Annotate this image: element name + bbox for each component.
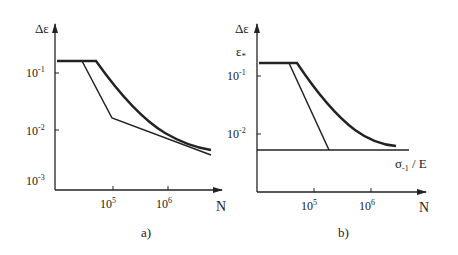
ylabel-a: Δε <box>35 21 49 36</box>
figure: Δε 10-1 10-2 10-3 105 106 N a) Δε ε* 10-… <box>0 0 458 255</box>
ytick-label-b-1: 10-1 <box>227 68 246 83</box>
ytick-label-a-2: 10-2 <box>26 123 45 138</box>
xtick-label-a-1: 105 <box>100 196 116 211</box>
xtick-label-b-1: 105 <box>301 198 317 213</box>
thick-curve-b <box>259 63 396 146</box>
xlabel-b: N <box>419 200 429 215</box>
thin-line-b <box>289 63 329 150</box>
xtick-label-b-2: 106 <box>359 198 375 213</box>
epsilon-star-label: ε* <box>236 44 246 61</box>
thick-curve-a <box>57 61 211 150</box>
caption-b: b) <box>338 225 349 240</box>
panel-b: Δε ε* 10-1 10-2 105 106 N σ-1 / E b) <box>227 21 429 240</box>
caption-a: a) <box>141 225 151 240</box>
thin-line-a <box>82 61 211 155</box>
ytick-label-a-3: 10-3 <box>26 173 45 188</box>
sigma-label: σ-1 / E <box>395 156 427 173</box>
ytick-label-a-1: 10-1 <box>26 65 45 80</box>
ytick-label-b-2: 10-2 <box>227 126 246 141</box>
xlabel-a: N <box>216 199 226 214</box>
ylabel-b: Δε <box>235 21 249 36</box>
xtick-label-a-2: 106 <box>156 196 172 211</box>
panel-a: Δε 10-1 10-2 10-3 105 106 N a) <box>26 21 226 240</box>
